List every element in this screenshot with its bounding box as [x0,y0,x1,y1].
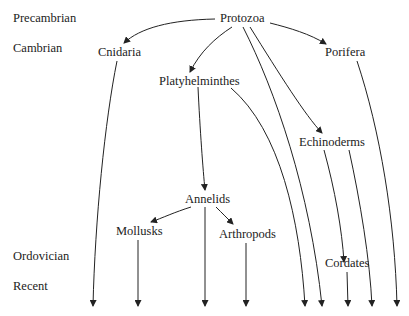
taxon-platyhelminthes: Platyhelminthes [159,75,240,88]
taxon-protozoa: Protozoa [220,12,264,25]
period-cambrian: Cambrian [13,42,62,55]
taxon-cnidaria: Cnidaria [98,46,141,59]
taxon-cordates: Cordates [325,257,369,270]
taxon-porifera: Porifera [325,46,365,59]
taxon-echinoderms: Echinoderms [299,136,365,149]
period-recent: Recent [13,280,48,293]
taxon-arthropods: Arthropods [219,228,276,241]
taxon-annelids: Annelids [185,193,230,206]
period-precambrian: Precambrian [13,12,76,25]
period-ordovician: Ordovician [13,250,69,263]
taxon-mollusks: Mollusks [116,225,163,238]
